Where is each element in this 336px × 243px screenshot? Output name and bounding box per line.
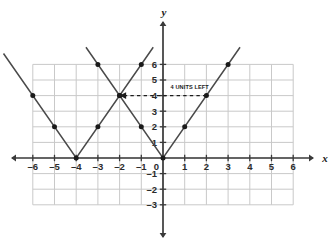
y-tick-label-6: 6 [152,59,157,70]
curve-1 [4,47,154,158]
data-point [74,156,79,161]
x-tick-label-3: 3 [225,161,230,172]
x-tick-label-4: 4 [247,161,253,172]
data-point [139,124,144,129]
coordinate-plane-svg: –6–5–4–3–2–10123456–3–2–1123456xy 4 UNIT… [0,0,336,243]
x-axis-label: x [321,152,328,164]
y-tick-label--2: –2 [146,184,157,195]
y-tick-label-5: 5 [152,74,158,85]
x-tick-label--6: –6 [28,161,39,172]
y-tick-label-2: 2 [152,121,157,132]
axis-arrowhead-right [309,155,314,162]
x-tick-label--3: –3 [93,161,104,172]
x-tick-label-6: 6 [291,161,296,172]
axis-arrowhead-down [160,233,167,238]
data-point [95,62,100,67]
data-point [182,124,187,129]
y-axis-label: y [160,6,167,18]
y-tick-label--1: –1 [146,168,157,179]
translation-annotation: 4 UNITS LEFT [120,84,210,99]
graph-figure: –6–5–4–3–2–10123456–3–2–1123456xy 4 UNIT… [0,0,336,243]
tick-labels: –6–5–4–3–2–10123456–3–2–1123456xy [28,6,329,210]
y-tick-label--3: –3 [146,199,157,210]
x-tick-label-5: 5 [269,161,275,172]
y-tick-label-3: 3 [152,106,157,117]
data-point [161,156,166,161]
x-tick-label--2: –2 [114,161,125,172]
x-tick-label--4: –4 [71,161,82,172]
annotation-label: 4 UNITS LEFT [171,84,210,90]
x-tick-label-2: 2 [204,161,209,172]
x-tick-label-1: 1 [182,161,188,172]
data-point [95,124,100,129]
axis-arrowhead-up [160,21,167,26]
axis-arrowhead-left [11,155,16,162]
data-point [52,124,57,129]
graph-curves [4,47,241,158]
data-point [30,93,35,98]
x-tick-label--5: –5 [49,161,60,172]
data-point [226,62,231,67]
data-point [139,62,144,67]
